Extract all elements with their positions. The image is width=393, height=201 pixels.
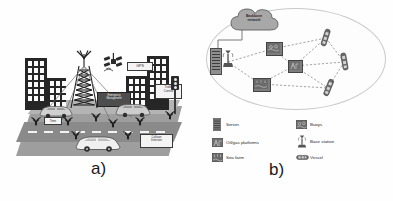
window: [141, 93, 145, 98]
window: [28, 89, 32, 94]
legend-item-server: Server: [212, 119, 239, 130]
window: [40, 68, 44, 73]
road-dash: [140, 131, 149, 133]
window: [141, 79, 145, 84]
window: [135, 86, 139, 91]
legend-label-buoys: Buoys: [310, 122, 322, 127]
window: [129, 79, 133, 84]
road-dash: [28, 131, 37, 133]
traffic-lamp-yellow: [174, 82, 177, 85]
wireless-signal-icon: [30, 114, 42, 126]
window: [135, 79, 139, 84]
legend-item-vessel: Vessel: [296, 152, 323, 163]
window: [156, 73, 160, 78]
vessel-icon: [323, 78, 334, 98]
panel-a-label: a): [91, 159, 106, 179]
window: [40, 96, 44, 101]
window: [34, 82, 38, 87]
window: [56, 81, 60, 86]
legend-item-sea-farm: Sea farm: [212, 152, 244, 163]
building-windows: [28, 61, 44, 101]
legend-label-vessel: Vessel: [310, 155, 323, 160]
window: [162, 73, 166, 78]
window: [40, 75, 44, 80]
backbone-network-label: Backbone network: [232, 14, 276, 23]
window: [150, 80, 154, 85]
wireless-signal-icon: [90, 110, 102, 122]
wireless-signal-icon: [62, 114, 74, 126]
legend-item-base-station: Base station: [296, 136, 334, 147]
panel-a: GPS Traffic Control Emergency Management…: [0, 0, 196, 201]
wireless-signal-icon: [107, 116, 119, 128]
oil-gas-platform-icon: [212, 137, 223, 148]
window: [162, 59, 166, 64]
server-slot: [212, 57, 220, 58]
window: [28, 82, 32, 87]
window: [28, 75, 32, 80]
oil-gas-platform-node-icon: [288, 60, 303, 73]
legend-label-oil-gas-platforms: Oil/gas platforms: [226, 140, 259, 145]
window: [28, 68, 32, 73]
window: [34, 89, 38, 94]
window: [62, 95, 66, 100]
window: [40, 61, 44, 66]
base-station-icon: [221, 50, 235, 68]
legend-item-oil-gas-platforms: Oil/gas platforms: [212, 137, 259, 148]
vessel-icon: [339, 52, 350, 72]
legend: Server Oil/gas platforms: [204, 118, 389, 170]
smart-city-scene: GPS Traffic Control Emergency Management…: [14, 48, 184, 160]
server-slot: [212, 66, 220, 67]
legend-label-server: Server: [226, 122, 239, 127]
traffic-lamp-green: [174, 86, 177, 89]
sea-farm-icon: [212, 152, 223, 163]
server-slot: [212, 51, 220, 52]
window: [62, 81, 66, 86]
window: [56, 95, 60, 100]
collision-detection-label-plate: Collision Detection: [140, 134, 173, 148]
window: [50, 88, 54, 93]
panel-b: Backbone network: [196, 0, 393, 201]
legend-label-base-station: Base station: [310, 139, 334, 144]
server-slot: [212, 63, 220, 64]
window: [150, 87, 154, 92]
window: [50, 81, 54, 86]
window: [34, 75, 38, 80]
server-slot: [212, 60, 220, 61]
time-label-plate: Time: [44, 117, 62, 125]
traffic-light-icon: [171, 76, 179, 90]
window: [156, 66, 160, 71]
window: [34, 96, 38, 101]
window: [156, 59, 160, 64]
window: [141, 86, 145, 91]
server-icon: [212, 119, 223, 130]
gps-satellite-icon: [102, 52, 124, 72]
traffic-lamp-red: [174, 78, 177, 81]
vehicle-icon: [114, 102, 152, 117]
road-dash: [92, 131, 101, 133]
window: [62, 88, 66, 93]
vessel-icon: [296, 152, 307, 163]
wireless-signal-icon: [122, 128, 134, 140]
road-dash: [44, 131, 53, 133]
window: [56, 88, 60, 93]
window: [150, 94, 154, 99]
window: [34, 68, 38, 73]
wireless-signal-icon: [164, 108, 176, 120]
figure-root: GPS Traffic Control Emergency Management…: [0, 0, 393, 201]
window: [40, 89, 44, 94]
vessel-icon: [320, 28, 331, 48]
window: [34, 61, 38, 66]
sea-farm-node-icon: [266, 42, 283, 56]
server-slot: [212, 54, 220, 55]
legend-item-buoys: Buoys: [296, 119, 322, 130]
road-dash: [156, 131, 165, 133]
window: [40, 82, 44, 87]
server-slot: [212, 69, 220, 70]
window: [28, 96, 32, 101]
cellular-tower-icon: [67, 50, 101, 112]
buoy-icon: [296, 119, 307, 130]
sea-farm-node-icon: [253, 78, 271, 92]
window: [50, 95, 54, 100]
window: [150, 73, 154, 78]
road-dash: [108, 131, 117, 133]
